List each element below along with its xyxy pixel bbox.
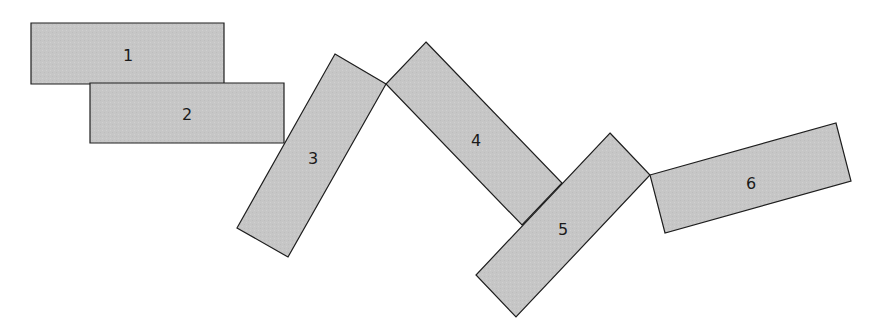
- block-1-label: 1: [123, 46, 133, 65]
- block-6: 6: [650, 123, 851, 233]
- block-3-label: 3: [308, 149, 318, 168]
- block-2: 2: [90, 83, 284, 143]
- block-5-label: 5: [558, 220, 568, 239]
- block-diagram: 1 2 3 4 5 6: [0, 0, 872, 333]
- block-1: 1: [31, 23, 224, 84]
- block-4-label: 4: [471, 131, 481, 150]
- block-4: 4: [386, 42, 562, 225]
- block-6-label: 6: [746, 174, 756, 193]
- block-2-label: 2: [182, 105, 192, 124]
